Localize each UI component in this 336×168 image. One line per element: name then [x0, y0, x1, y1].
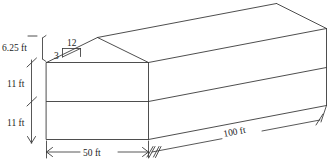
- dimension-arrow-ground-head-right: [32, 137, 36, 144]
- roof-hip-rafter-rear: [277, 4, 327, 29]
- roof-ridge-line: [98, 4, 277, 38]
- roof-slope-indicator: 12 3: [54, 38, 81, 61]
- depth-dimension-line-left-segment: [152, 139, 222, 152]
- roof-height-label: 6.25 ft: [2, 43, 27, 53]
- vertical-dimension-chain: 6.25 ft 11 ft 11 ft: [2, 36, 46, 144]
- roof-height-bracket-top-serif: [43, 36, 47, 39]
- dimension-arrow-ground-head-left: [28, 137, 32, 144]
- roof-hip-rafter-right: [98, 38, 149, 63]
- slope-run-label: 12: [67, 38, 77, 48]
- upper-story-height-label: 11 ft: [7, 79, 25, 89]
- side-face-floor-divider: [149, 68, 327, 102]
- lower-story-height-label: 11 ft: [7, 118, 25, 128]
- depth-dimension: 100 ft: [149, 106, 327, 158]
- width-dimension: 50 ft: [47, 141, 160, 158]
- diagram-canvas: 12 3 6.25 ft 11 ft: [0, 0, 336, 168]
- front-face-outline: [47, 63, 149, 140]
- slope-rise-label: 3: [54, 51, 59, 61]
- building-depth-label: 100 ft: [223, 125, 247, 139]
- depth-dimension-line-right-segment: [262, 120, 320, 131]
- roof-height-bracket-bottom-serif: [43, 59, 47, 62]
- roof-height-dimension: 6.25 ft: [2, 36, 46, 62]
- depth-extension-line-right: [321, 106, 327, 123]
- building-width-label: 50 ft: [83, 148, 101, 158]
- side-face-top-edge: [149, 29, 327, 63]
- width-arrow-right-upper: [143, 148, 149, 153]
- building-structure: [47, 4, 327, 140]
- building-dimension-diagram: 12 3 6.25 ft 11 ft: [0, 0, 336, 168]
- width-arrow-left-upper: [47, 148, 53, 153]
- width-arrow-left-lower: [47, 152, 53, 157]
